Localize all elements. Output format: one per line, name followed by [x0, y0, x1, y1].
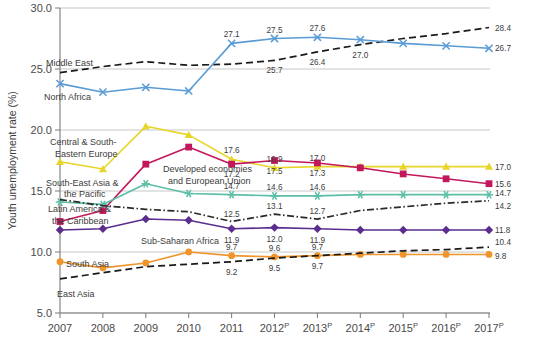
data-point-label: 9.6: [269, 244, 281, 253]
data-point-marker: [270, 223, 278, 231]
y-axis-tick-label: 5.0: [37, 307, 52, 319]
series-annotation-label: Central & South-: [50, 137, 117, 147]
data-point-marker: [227, 225, 235, 233]
data-point-label: 12.5: [224, 210, 240, 219]
data-point-label: 10.4: [495, 238, 511, 247]
data-point-marker: [142, 260, 149, 267]
chart-canvas: 30.025.020.015.010.05.0Youth unemploymen…: [0, 0, 546, 353]
projection-marker: P: [327, 321, 332, 330]
series-annotation-label: East Asia: [57, 289, 95, 299]
y-axis-tick-label: 10.0: [31, 246, 52, 258]
data-point-marker: [142, 122, 150, 129]
series-north-africa: [56, 34, 492, 96]
data-point-marker: [486, 251, 493, 258]
data-point-marker: [271, 253, 278, 260]
x-axis-tick-label: 2016P: [431, 321, 461, 334]
data-point-marker: [313, 192, 321, 199]
data-point-label: 9.5: [269, 264, 281, 273]
x-axis-tick-label: 2014P: [346, 321, 376, 334]
data-point-label: 27.5: [267, 26, 283, 35]
data-point-marker: [56, 226, 64, 234]
data-point-label: 14.6: [309, 183, 325, 192]
x-axis-tick-label: 2009: [134, 322, 158, 334]
y-axis-tick-label: 30.0: [31, 2, 52, 14]
data-point-label: 11.8: [495, 226, 511, 235]
series-annotation-label: Developed economies: [163, 164, 253, 174]
projection-marker: P: [499, 321, 504, 330]
data-point-marker: [185, 249, 192, 256]
data-point-marker: [443, 251, 450, 258]
data-point-marker: [443, 175, 450, 182]
x-axis-tick-label: 2013P: [303, 321, 333, 334]
x-axis-tick-label: 2012P: [260, 321, 290, 334]
series-annotation-label: Sub-Saharan Africa: [141, 236, 219, 246]
series-annotation-label: Latin America &: [48, 204, 111, 214]
data-point-label: 12.0: [267, 235, 283, 244]
data-point-label: 16.9: [267, 155, 283, 164]
data-point-label: 25.7: [267, 66, 283, 75]
data-point-label: 17.6: [224, 146, 240, 155]
y-axis-tick-label: 20.0: [31, 124, 52, 136]
data-point-label: 12.7: [309, 207, 325, 216]
data-point-label: 9.2: [226, 268, 238, 277]
data-point-marker: [442, 226, 450, 234]
data-point-label: 27.1: [224, 30, 240, 39]
data-point-label: 17.0: [309, 154, 325, 163]
data-point-marker: [400, 251, 407, 258]
series-annotation-label: South Asia: [66, 259, 109, 269]
x-axis-tick-label: 2017P: [474, 321, 504, 334]
data-point-label: 27.6: [309, 24, 325, 33]
data-point-label: 27.0: [352, 51, 368, 60]
data-point-marker: [142, 161, 149, 168]
data-point-label: 14.6: [267, 183, 283, 192]
data-point-label: 14.7: [495, 189, 511, 198]
data-point-marker: [357, 251, 364, 258]
series-annotation-label: the Caribbean: [52, 216, 109, 226]
data-point-label: 26.7: [495, 44, 511, 53]
x-axis-tick-label: 2007: [48, 322, 72, 334]
data-point-label: 15.6: [495, 180, 511, 189]
data-point-label: 9.8: [495, 252, 507, 261]
x-axis-tick-label: 2011: [220, 322, 244, 334]
youth-unemployment-line-chart: 30.025.020.015.010.05.0Youth unemploymen…: [0, 0, 546, 353]
data-point-marker: [185, 216, 193, 224]
projection-marker: P: [413, 321, 418, 330]
data-point-label: 9.7: [226, 243, 238, 252]
series-annotation-label: Middle East: [46, 58, 94, 68]
data-point-label: 28.4: [495, 24, 511, 33]
data-point-marker: [356, 191, 364, 198]
series-annotation-label: the Pacific: [64, 189, 106, 199]
data-point-label: 26.4: [309, 58, 325, 67]
data-point-marker: [313, 225, 321, 233]
data-point-marker: [442, 191, 450, 198]
x-axis-tick-label: 2010: [176, 322, 200, 334]
x-axis-tick-label: 2015P: [388, 321, 418, 334]
data-point-marker: [228, 252, 235, 259]
x-axis-tick-label: 2008: [91, 322, 115, 334]
data-point-label: 9.7: [312, 243, 324, 252]
data-point-marker: [486, 180, 493, 187]
data-point-marker: [485, 226, 493, 234]
data-point-label: 9.7: [312, 262, 324, 271]
data-point-label: 17.0: [495, 163, 511, 172]
data-point-marker: [57, 258, 64, 265]
data-point-label: 14.2: [495, 202, 511, 211]
data-point-marker: [400, 171, 407, 178]
projection-marker: P: [284, 321, 289, 330]
data-point-marker: [142, 180, 150, 187]
data-point-marker: [399, 226, 407, 234]
data-point-marker: [399, 191, 407, 198]
data-point-marker: [485, 191, 493, 198]
series-annotation-label: North Africa: [44, 92, 91, 102]
y-axis-title: Youth unemployment rate (%): [6, 91, 18, 230]
projection-marker: P: [456, 321, 461, 330]
series-annotation-label: South-East Asia &: [46, 178, 119, 188]
data-point-marker: [227, 191, 235, 198]
series-annotation-label: Eastern Europe: [55, 149, 118, 159]
series-sub-saharan-africa: [56, 215, 493, 234]
projection-marker: P: [370, 321, 375, 330]
series-line: [60, 37, 489, 92]
data-point-label: 17.3: [309, 169, 325, 178]
series-annotation-label: and European Union: [168, 176, 251, 186]
data-point-marker: [357, 164, 364, 171]
